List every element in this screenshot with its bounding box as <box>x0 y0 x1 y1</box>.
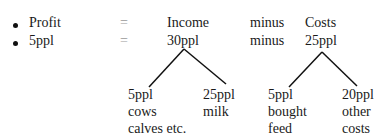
income-branch-milk: 25ppl milk <box>203 86 235 120</box>
branch-label: cows <box>128 103 186 120</box>
branch-label: milk <box>203 103 235 120</box>
branch-label: costs <box>342 120 374 137</box>
branch-label: calves etc. <box>128 120 186 137</box>
branch-value: 25ppl <box>203 86 235 103</box>
branch-value: 20ppl <box>342 86 374 103</box>
branch-label: feed <box>268 120 307 137</box>
income-branch-cows: 5ppl cows calves etc. <box>128 86 186 137</box>
cost-branch-other: 20ppl other costs <box>342 86 374 137</box>
branch-value: 5ppl <box>268 86 307 103</box>
branch-label: bought <box>268 103 307 120</box>
cost-branch-feed: 5ppl bought feed <box>268 86 307 137</box>
branch-label: other <box>342 103 374 120</box>
branch-value: 5ppl <box>128 86 186 103</box>
branch-lines <box>0 0 384 138</box>
